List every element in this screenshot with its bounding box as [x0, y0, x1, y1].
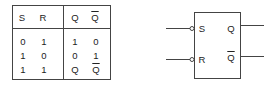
sr-flip-flop-diagram — [0, 0, 275, 87]
output-label-qbar: Q — [224, 52, 238, 63]
input-label-r: R — [195, 54, 209, 65]
inverter-bubble-s-icon — [190, 27, 194, 31]
input-label-s: S — [195, 23, 209, 34]
output-label-q: Q — [224, 23, 238, 34]
inverter-bubble-r-icon — [190, 58, 194, 62]
